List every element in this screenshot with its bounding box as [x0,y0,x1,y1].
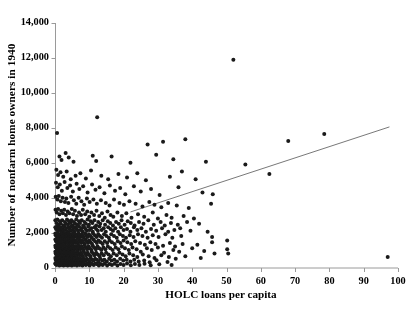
y-tick-label: 14,000 [21,16,49,27]
plot-area [0,0,412,309]
y-tick-label: 12,000 [21,51,49,62]
y-tick-label: 0 [44,261,49,272]
scatter-chart: Number of nonfarm home owners in 1940 HO… [0,0,412,309]
x-tick-label: 100 [378,275,412,286]
y-tick-label: 2,000 [26,226,49,237]
y-tick-label: 6,000 [26,156,49,167]
y-axis-label-text: Number of nonfarm home owners in 1940 [4,44,16,247]
y-tick-label: 4,000 [26,191,49,202]
y-axis-label: Number of nonfarm home owners in 1940 [0,0,21,290]
y-tick-label: 8,000 [26,121,49,132]
x-axis-label: HOLC loans per capita [0,288,412,300]
y-tick-label: 10,000 [21,86,49,97]
